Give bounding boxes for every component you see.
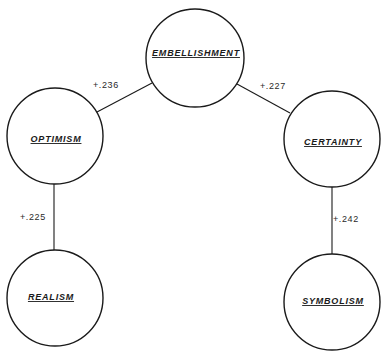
- correlation-diagram: +.236 +.227 +.225 +.242 EMBELLISHMENT OP…: [0, 0, 387, 354]
- node-label-embellishment: EMBELLISHMENT: [152, 48, 241, 58]
- edge-label-optimism-realism: +.225: [20, 212, 46, 222]
- node-label-symbolism: SYMBOLISM: [302, 296, 364, 306]
- node-circle: [146, 9, 244, 107]
- node-label-realism: REALISM: [28, 292, 74, 302]
- edge-label-embellishment-certainty: +.227: [260, 81, 286, 91]
- node-realism: REALISM: [7, 250, 103, 346]
- node-certainty: CERTAINTY: [284, 91, 380, 187]
- edge-label-certainty-symbolism: +.242: [333, 214, 359, 224]
- node-label-optimism: OPTIMISM: [31, 134, 82, 144]
- node-symbolism: SYMBOLISM: [284, 254, 380, 350]
- node-embellishment: EMBELLISHMENT: [146, 9, 244, 107]
- edge-label-embellishment-optimism: +.236: [93, 80, 119, 90]
- node-label-certainty: CERTAINTY: [304, 137, 362, 147]
- node-optimism: OPTIMISM: [7, 88, 103, 184]
